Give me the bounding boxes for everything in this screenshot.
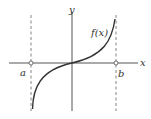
open-point-b	[114, 61, 118, 65]
curve-label: f(x)	[90, 27, 108, 38]
open-point-a	[29, 61, 33, 65]
x-axis-label: x	[140, 57, 146, 68]
y-axis-label: y	[68, 4, 75, 15]
graph-canvas: y x f(x) a b	[0, 0, 151, 119]
function-graph-figure: y x f(x) a b	[0, 0, 151, 119]
label-b: b	[118, 68, 124, 79]
label-a: a	[20, 67, 26, 78]
